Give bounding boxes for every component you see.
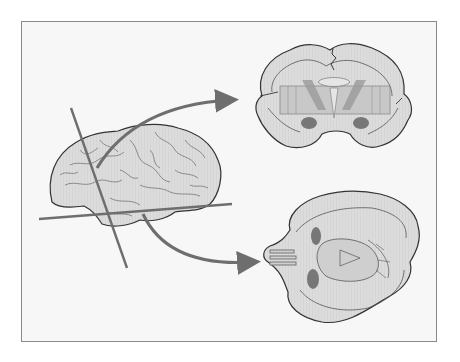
- lower-nucleus: [307, 269, 319, 289]
- upper-nucleus: [311, 227, 321, 245]
- arrow-to-axial: [143, 214, 252, 263]
- right-nucleus: [353, 117, 369, 129]
- coronal-section: [256, 44, 412, 148]
- left-nucleus: [301, 117, 317, 129]
- brain-sections-diagram: [0, 0, 460, 362]
- axial-section: [264, 191, 420, 322]
- lateral-brain: [39, 108, 232, 268]
